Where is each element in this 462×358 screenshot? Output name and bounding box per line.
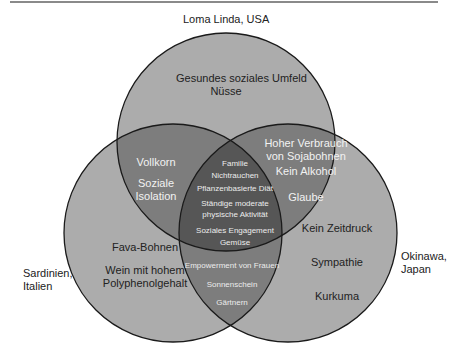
set-label-sardinien: Sardinien, Italien xyxy=(23,267,73,293)
region-item: physische Aktivität xyxy=(180,210,290,220)
region-item: Gärtnern xyxy=(174,298,290,308)
region-item: Nichtrauchen xyxy=(180,170,290,182)
region-item: Sonnenschein xyxy=(174,280,290,290)
region-item: Ständige moderate xyxy=(180,199,290,209)
region-item: Soziale xyxy=(126,177,186,190)
set-label-line: Italien xyxy=(23,280,73,293)
region-item: Gemüse xyxy=(180,237,290,249)
region-item: Kurkuma xyxy=(292,290,382,303)
region-item: Familie xyxy=(180,158,290,170)
region-item: Vollkorn xyxy=(126,156,186,169)
region-item: Gesundes soziales Umfeld xyxy=(176,72,276,85)
region-item: Kein Zeitdruck xyxy=(292,222,382,235)
region-item: Empowerment von Frauen xyxy=(174,261,290,271)
region-item: Nüsse xyxy=(176,85,276,98)
region-item: Hoher Verbrauch xyxy=(258,137,354,150)
region-item: Sympathie xyxy=(292,256,382,269)
region-right-only: Kein Zeitdruck Sympathie Kurkuma xyxy=(292,222,382,304)
region-item: Soziales Engagement xyxy=(180,225,290,237)
set-label-loma-linda: Loma Linda, USA xyxy=(183,13,269,26)
region-left-right: Empowerment von Frauen Sonnenschein Gärt… xyxy=(174,261,290,308)
set-label-okinawa: Okinawa, Japan xyxy=(401,250,447,276)
set-label-line: Okinawa, xyxy=(401,250,447,263)
region-item: Isolation xyxy=(126,190,186,203)
region-all-three: Familie Nichtrauchen Pflanzenbasierte Di… xyxy=(180,158,290,250)
region-top-left: Vollkorn Soziale Isolation xyxy=(126,156,186,204)
set-label-line: Sardinien, xyxy=(23,267,73,280)
region-top-only: Gesundes soziales Umfeld Nüsse xyxy=(176,72,276,98)
region-item: Pflanzenbasierte Diät xyxy=(180,183,290,195)
set-label-line: Japan xyxy=(401,263,447,276)
